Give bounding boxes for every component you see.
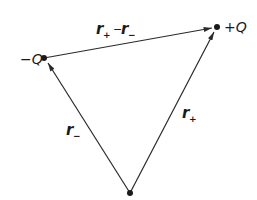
svg-text:+: +: [189, 114, 197, 124]
point-plus-q: [214, 24, 220, 30]
label-minus-q: −Q: [20, 51, 43, 67]
vector-r-minus-line: [48, 63, 130, 193]
svg-text:−: −: [128, 30, 136, 40]
svg-text:+: +: [103, 30, 111, 40]
label-plus-q: +Q: [224, 19, 247, 35]
point-origin: [127, 190, 133, 196]
vector-r-plus-line: [130, 32, 214, 193]
label-r-difference: r + − r −: [96, 20, 136, 40]
vector-diagram: −Q +Q r + − r − r − r +: [0, 0, 257, 200]
label-r-plus: r +: [182, 104, 197, 124]
label-r-minus: r −: [66, 121, 81, 141]
svg-text:−: −: [73, 131, 81, 141]
